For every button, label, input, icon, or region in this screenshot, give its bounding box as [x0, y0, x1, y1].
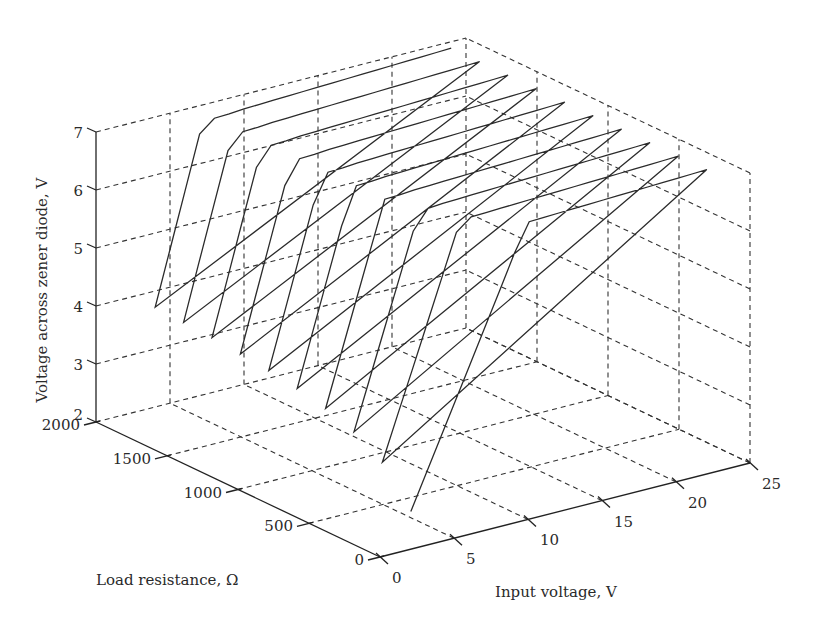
z-tick-label: 5 — [73, 240, 83, 258]
z-tick-mark — [87, 244, 96, 248]
x-tick-mark — [746, 459, 758, 470]
z-tick-mark — [87, 128, 96, 132]
z-axis-label: Voltage across zener diode, V — [33, 176, 51, 403]
floor-grid-line — [309, 429, 679, 523]
x-tick-label: 5 — [466, 550, 476, 568]
y-tick-label: 1500 — [113, 450, 151, 468]
x-tick-mark — [598, 497, 610, 508]
y-tick-label: 500 — [264, 517, 293, 535]
x-axis-label: Input voltage, V — [495, 583, 618, 601]
zener-voltage-curves — [155, 48, 707, 512]
x-tick-label: 15 — [614, 513, 633, 531]
x-tick-label: 0 — [392, 569, 402, 587]
y-axis-label: Load resistance, Ω — [96, 571, 238, 589]
x-tick-label: 10 — [540, 531, 559, 549]
back-wall-grid-line — [96, 38, 466, 132]
y-tick-label: 0 — [354, 551, 364, 569]
z-tick-mark — [87, 186, 96, 190]
z-tick-label: 7 — [73, 124, 83, 142]
x-tick-mark — [524, 515, 536, 526]
back-wall-grid-line — [96, 96, 466, 190]
x-tick-mark — [672, 478, 684, 489]
x-tick-mark — [450, 534, 462, 545]
x-tick-label: 20 — [688, 494, 707, 512]
z-tick-mark — [87, 302, 96, 306]
z-tick-label: 4 — [73, 298, 83, 316]
x-tick-label: 25 — [762, 475, 781, 493]
z-tick-label: 2 — [73, 406, 83, 424]
floor-grid-line — [238, 396, 608, 490]
z-tick-label: 3 — [73, 356, 83, 374]
zener-3d-chart: 05101520250500100015002000234567 Voltage… — [0, 0, 818, 635]
z-tick-mark — [87, 360, 96, 364]
z-tick-label: 6 — [73, 182, 83, 200]
z-tick-mark — [87, 418, 96, 422]
data-curves — [155, 48, 707, 512]
y-tick-label: 1000 — [184, 484, 222, 502]
x-tick-mark — [376, 553, 388, 564]
floor-grid-line — [167, 362, 537, 456]
